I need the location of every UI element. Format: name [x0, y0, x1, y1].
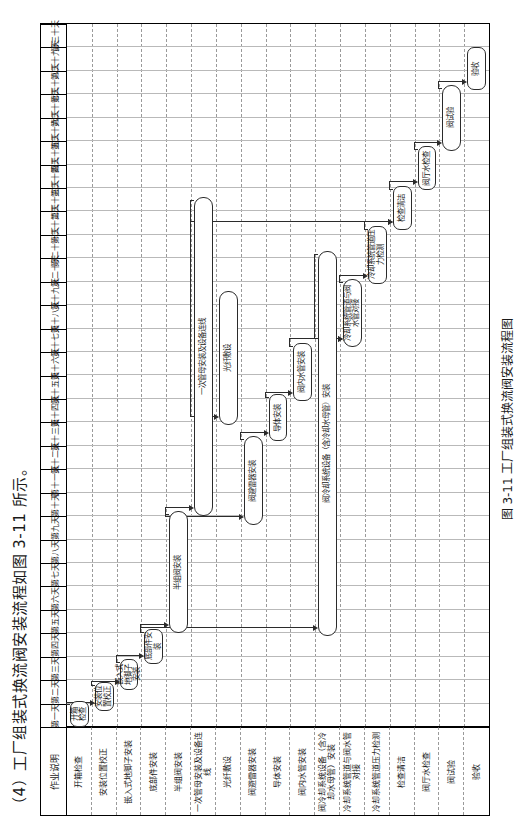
connector-arrowhead [437, 140, 442, 146]
connector-horizontal [91, 682, 92, 687]
connector-horizontal [438, 82, 439, 89]
day-gridline [67, 117, 489, 118]
row-label: 半组阀安装 [166, 727, 191, 815]
day-gridline [67, 609, 489, 610]
connector-vertical [389, 181, 414, 182]
row-label: 阀冷却系统设备（含冷却水母管）安装 [315, 727, 340, 815]
row-separator [290, 24, 291, 727]
task-box[interactable]: 光纤敷设 [219, 291, 238, 425]
day-gridline [67, 210, 489, 211]
day-gridline [67, 515, 489, 516]
row-separator [390, 24, 391, 727]
day-header-row: 作业说明第一天第二天第三天第四天第五天第六天第七天第八天第九天第十天第十一天第十… [41, 24, 67, 815]
connector-vertical [240, 432, 265, 433]
row-separator [464, 24, 465, 727]
row-label: 冷却系统管道压力检测 [365, 727, 390, 815]
day-gridline [67, 257, 489, 258]
connector-horizontal [190, 201, 191, 222]
task-box[interactable]: 底部件安装 [144, 629, 163, 664]
task-box[interactable]: 阀避雷器安装 [244, 436, 263, 525]
day-header-cell: 第五天 [41, 610, 67, 633]
task-box[interactable]: 嵌入式地脚子安装 [120, 659, 139, 689]
row-label: 开箱检查 [67, 727, 92, 815]
task-box[interactable]: 开箱检查 [70, 701, 89, 727]
row-label: 验收 [464, 727, 489, 815]
row-separator [117, 24, 118, 727]
day-gridline [67, 632, 489, 633]
connector-horizontal [190, 201, 191, 416]
row-label: 检查清洁 [390, 727, 415, 815]
day-header-cell: 第一天 [41, 704, 67, 727]
task-box[interactable]: 阀试验 [442, 85, 461, 151]
connector-vertical [414, 142, 439, 143]
row-separator [241, 24, 242, 727]
connector-horizontal [265, 393, 266, 398]
connector-arrowhead [288, 390, 293, 396]
row-separator [340, 24, 341, 727]
row-separator [365, 24, 366, 727]
connector-horizontal [66, 703, 67, 706]
row-label: 阀厅水检查 [415, 727, 440, 815]
row-separator [315, 24, 316, 727]
day-header-cell: 第六天 [41, 586, 67, 609]
connector-arrowhead [264, 430, 269, 436]
day-gridline [67, 281, 489, 282]
task-box[interactable]: 验收 [467, 47, 486, 89]
connector-horizontal [314, 255, 315, 339]
row-separator [141, 24, 142, 727]
task-box[interactable]: 半组阀安装 [169, 511, 188, 633]
connector-arrowhead [313, 625, 318, 631]
connector-horizontal [339, 276, 340, 283]
connector-arrowhead [164, 622, 169, 628]
row-separator [92, 24, 93, 727]
day-gridline [67, 70, 489, 71]
day-header-cell: 第七天 [41, 563, 67, 586]
row-label: 阀内水管安装 [290, 727, 315, 815]
row-separator [415, 24, 416, 727]
task-box[interactable]: 阀厅水检查 [418, 146, 437, 191]
row-label: 嵌入式地脚子安装 [117, 727, 142, 815]
connector-arrowhead [139, 653, 144, 659]
connector-vertical [140, 624, 165, 625]
connector-arrowhead [115, 679, 120, 685]
intro-text: （4）工厂组装式换流阀安装流程如图 3-11 所示。 [8, 461, 29, 812]
day-header-cell: 第三十天 [41, 24, 67, 47]
task-box[interactable]: 安装位置校正 [95, 683, 114, 711]
connector-arrowhead [462, 79, 467, 85]
day-header-cell: 第八天 [41, 540, 67, 563]
connector-horizontal [364, 222, 365, 229]
task-box[interactable]: 一次管母安装及设备连线 [194, 197, 213, 516]
connector-vertical [190, 221, 389, 222]
connector-arrowhead [90, 700, 95, 706]
connector-vertical [165, 507, 190, 508]
day-header-cell: 第九天 [41, 516, 67, 539]
connector-vertical [364, 221, 389, 222]
task-box[interactable]: 冷却系统管道与阀水管对接 [343, 279, 362, 347]
task-box[interactable]: 检查清洁 [393, 186, 412, 231]
row-label: 导体安装 [266, 727, 291, 815]
task-box[interactable]: 冷却系统管道压力检测 [368, 226, 387, 285]
day-gridline [67, 703, 489, 704]
connector-arrowhead [214, 414, 219, 420]
day-header-cell: 第三天 [41, 657, 67, 680]
task-box[interactable]: 阀内水管安装 [293, 343, 312, 402]
day-gridline [67, 539, 489, 540]
task-box[interactable]: 导体安装 [269, 394, 288, 441]
task-box[interactable]: 阀冷却系统设备（含冷却水母管）安装 [318, 251, 337, 635]
row-separator [439, 24, 440, 727]
row-label: 底部件安装 [141, 727, 166, 815]
connector-arrowhead [363, 273, 368, 279]
day-header-cell: 第二天 [41, 680, 67, 703]
connector-vertical [116, 655, 141, 656]
connector-horizontal [140, 628, 141, 633]
header-corner-label: 作业说明 [41, 727, 67, 815]
day-gridline [67, 93, 489, 94]
day-gridline [67, 46, 489, 47]
day-gridline [67, 23, 489, 24]
row-label: 一次管母安装及设备连线 [191, 727, 216, 815]
day-gridline [67, 328, 489, 329]
flowchart-page: （4）工厂组装式换流阀安装流程如图 3-11 所示。 作业说明第一天第二天第三天… [0, 0, 529, 838]
row-label: 阀试验 [439, 727, 464, 815]
day-gridline [67, 585, 489, 586]
day-gridline [67, 726, 489, 727]
